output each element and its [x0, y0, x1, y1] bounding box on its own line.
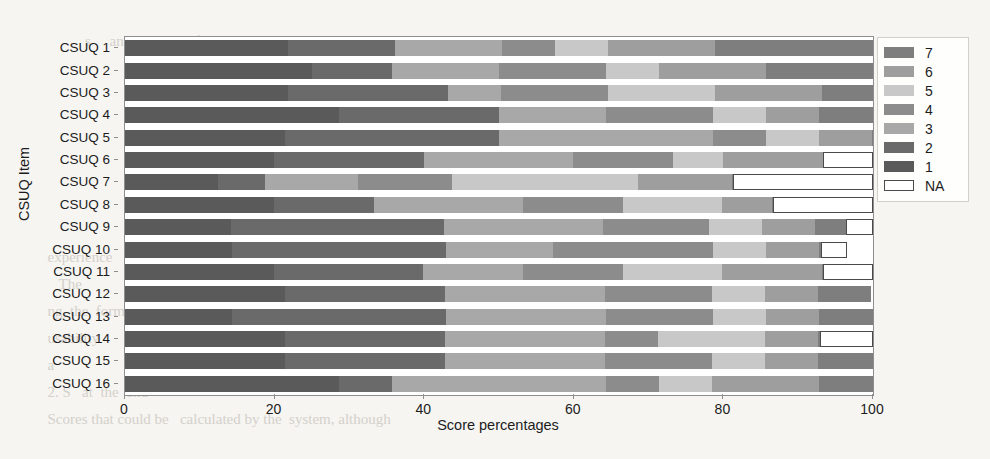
- legend-swatch-5: [884, 85, 914, 96]
- bar-row: [125, 331, 873, 347]
- legend-swatch-7: [884, 47, 914, 58]
- bar-segment-3: [395, 40, 502, 56]
- bar-row: [125, 40, 873, 56]
- bar-segment-6: [766, 107, 819, 123]
- legend: 7654321NA: [877, 37, 969, 202]
- bar-segment-na: [823, 152, 873, 168]
- bar-segment-2: [285, 286, 445, 302]
- bar-segment-1: [125, 376, 339, 392]
- bar-segment-1: [125, 85, 288, 101]
- y-axis-tick-mark: [114, 92, 118, 93]
- bar-segment-na: [823, 264, 873, 280]
- bar-segment-3: [423, 264, 523, 280]
- legend-item: 3: [884, 119, 962, 138]
- bar-segment-1: [125, 130, 285, 146]
- bar-segment-4: [606, 309, 713, 325]
- bar-segment-3: [448, 85, 501, 101]
- bar-row: [125, 174, 873, 190]
- legend-item: 2: [884, 138, 962, 157]
- bar-segment-1: [125, 242, 232, 258]
- x-axis-tick-mark: [722, 394, 723, 399]
- bar-segment-1: [125, 331, 285, 347]
- x-axis-tick-mark: [124, 394, 125, 399]
- bar-segment-7: [819, 309, 873, 325]
- x-axis-tick-mark: [423, 394, 424, 399]
- y-axis-tick-mark: [114, 271, 118, 272]
- legend-label: 1: [925, 160, 933, 174]
- plot-area: [124, 36, 874, 396]
- bar-segment-7: [815, 219, 846, 235]
- bar-segment-2: [339, 376, 392, 392]
- legend-swatch-3: [884, 123, 914, 134]
- bar-segment-2: [274, 197, 374, 213]
- bar-segment-6: [765, 353, 818, 369]
- y-axis-tick-label: CSUQ 5: [60, 129, 110, 144]
- bar-segment-5: [608, 85, 715, 101]
- bar-row: [125, 353, 873, 369]
- x-axis-tick-label: 60: [565, 401, 581, 417]
- bar-segment-6: [715, 85, 822, 101]
- bar-segment-na: [820, 331, 873, 347]
- bar-segment-5: [659, 376, 712, 392]
- bar-segment-4: [501, 85, 608, 101]
- y-axis-tick-label: CSUQ 4: [60, 107, 110, 122]
- legend-swatch-6: [884, 66, 914, 77]
- bar-segment-1: [125, 152, 274, 168]
- bar-segment-3: [445, 286, 605, 302]
- bar-segment-5: [709, 219, 762, 235]
- legend-item: 1: [884, 157, 962, 176]
- bar-segment-4: [605, 353, 712, 369]
- y-axis-tick-label: CSUQ 11: [53, 263, 110, 278]
- bar-segment-5: [673, 152, 723, 168]
- y-axis-tick-mark: [114, 338, 118, 339]
- bar-segment-3: [424, 152, 573, 168]
- legend-label: 6: [925, 65, 933, 79]
- y-axis-tick-label: CSUQ 8: [60, 196, 110, 211]
- bar-segment-1: [125, 174, 218, 190]
- bar-segment-3: [392, 63, 499, 79]
- bar-segment-3: [445, 331, 605, 347]
- bar-segment-6: [819, 130, 872, 146]
- bar-segment-4: [605, 331, 658, 347]
- x-axis-title: Score percentages: [124, 417, 872, 433]
- bar-segment-6: [762, 219, 815, 235]
- legend-label: 3: [925, 122, 933, 136]
- bar-row: [125, 286, 873, 302]
- y-axis-tick-mark: [114, 181, 118, 182]
- y-axis-tick-label: CSUQ 16: [52, 375, 110, 390]
- bar-segment-7: [818, 286, 871, 302]
- bar-segment-7: [872, 130, 873, 146]
- bar-segment-na: [773, 197, 873, 213]
- y-axis-tick-label: CSUQ 1: [60, 40, 110, 55]
- y-axis-tick-label: CSUQ 12: [52, 286, 110, 301]
- legend-swatch-4: [884, 104, 914, 115]
- bar-segment-6: [722, 264, 822, 280]
- y-axis-tick-mark: [114, 383, 118, 384]
- bar-segment-6: [712, 376, 819, 392]
- bar-segment-1: [125, 286, 285, 302]
- legend-item: 7: [884, 43, 962, 62]
- bar-segment-7: [766, 63, 873, 79]
- y-axis-title: CSUQ Item: [16, 124, 32, 244]
- bar-segment-4: [606, 107, 713, 123]
- y-axis-tick-label: CSUQ 13: [52, 308, 110, 323]
- legend-swatch-2: [884, 142, 914, 153]
- bar-segment-2: [274, 264, 423, 280]
- bar-segment-5: [766, 130, 819, 146]
- legend-item: 6: [884, 62, 962, 81]
- bar-row: [125, 63, 873, 79]
- bar-segment-1: [125, 219, 231, 235]
- bar-row: [125, 376, 873, 392]
- bar-segment-4: [605, 286, 712, 302]
- bar-segment-2: [274, 152, 423, 168]
- bar-segment-5: [713, 242, 766, 258]
- bar-segment-6: [659, 63, 766, 79]
- stacked-bar-chart-figure: CSUQ 1CSUQ 2CSUQ 3CSUQ 4CSUQ 5CSUQ 6CSUQ…: [0, 0, 990, 459]
- bar-segment-4: [603, 219, 709, 235]
- y-axis-tick-mark: [114, 47, 118, 48]
- bar-segment-2: [231, 219, 444, 235]
- bar-segment-4: [606, 376, 659, 392]
- bar-segment-1: [125, 309, 232, 325]
- bar-segment-na: [821, 242, 848, 258]
- bar-segment-5: [713, 107, 766, 123]
